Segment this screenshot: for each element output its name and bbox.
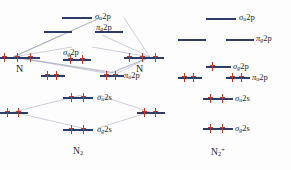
electron [142,108,147,117]
label-pi-u-2p-right: πu2p [252,73,268,82]
label-sigma-g-2p-right: σg2p [233,62,249,71]
electron [220,94,225,103]
electron [80,55,85,64]
label-pi-g-2p-right: πg2p [256,34,272,43]
correlation-lines [0,0,291,170]
electron [2,53,7,62]
electron [81,93,86,102]
level-bar-pi-g-2p-left-a [44,31,72,33]
electron [210,62,215,71]
label-sigma-u-2p-right: σu2p [239,13,255,22]
electron [191,73,196,82]
mo-diagram-canvas: σu2p πg2p σg2p πu2p σu2s σg2s [0,0,291,170]
electron [5,108,10,117]
electron [239,73,244,82]
electron [113,71,118,80]
electron [127,53,132,62]
electron [104,71,109,80]
label-sigma-g-2s-left: σg2s [97,125,112,134]
label-sigma-g-2p-left: σg2p [63,48,79,57]
electron [153,53,158,62]
electron [69,125,74,134]
electron [182,73,187,82]
electron [153,108,158,117]
level-bar-pi-g-2p-right-a [178,39,206,41]
level-bar-pi-g-2p-right-b [226,39,254,41]
molecule-caption-n2: N2 [73,147,83,157]
level-bar-sigma-u-2p-left [62,17,92,19]
electron [220,124,225,133]
electron [28,53,33,62]
atom-label-right-n: N [136,64,143,74]
level-bar-sigma-u-2p-right [206,18,236,20]
electron [15,53,20,62]
label-pi-g-2p-left: πg2p [96,23,112,32]
electron [69,93,74,102]
electron [208,94,213,103]
molecule-caption-n2-cation: N2+ [211,147,225,158]
electron [230,73,235,82]
electron [81,125,86,134]
electron [208,124,213,133]
electron [16,108,21,117]
label-sigma-u-2s-right: σu2s [235,94,250,103]
electron [45,71,50,80]
label-sigma-u-2s-left: σu2s [97,93,112,102]
electron [54,71,59,80]
electron [140,53,145,62]
atom-label-left-n: N [16,64,23,74]
level-bar-sigma-g-2s-left [63,129,93,131]
label-sigma-u-2p-left: σu2p [95,12,111,21]
label-sigma-g-2s-right: σg2s [235,124,250,133]
level-bar-sigma-u-2s-left [63,97,93,99]
